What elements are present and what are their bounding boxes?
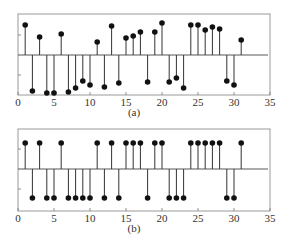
stem-marker <box>195 22 201 28</box>
x-tick-label: 10 <box>85 212 97 224</box>
x-tick-label: 25 <box>193 212 205 224</box>
stem-marker <box>231 82 237 88</box>
stem-marker <box>66 195 72 201</box>
x-tick-label: 0 <box>15 96 21 108</box>
x-tick-label: 5 <box>51 212 57 224</box>
panel-label: (b) <box>128 222 141 235</box>
stem-marker <box>159 140 165 146</box>
stem-marker <box>44 90 50 96</box>
x-tick-label: 10 <box>85 96 97 108</box>
stem-panel-b: 05101520253035(b) <box>15 129 276 235</box>
stem-marker <box>87 195 93 201</box>
stem-marker <box>58 31 64 37</box>
x-tick-label: 35 <box>265 96 277 108</box>
stem-marker <box>94 140 100 146</box>
stem-marker <box>109 23 115 29</box>
stem-marker <box>217 140 223 146</box>
stem-marker <box>30 88 36 94</box>
stem-marker <box>30 195 36 201</box>
stem-marker <box>210 24 216 30</box>
stem-marker <box>94 39 100 45</box>
stem-panel-a: 05101520253035(a) <box>15 14 276 119</box>
x-tick-label: 30 <box>229 96 241 108</box>
stem-marker <box>66 89 72 95</box>
stem-marker <box>102 84 108 90</box>
stem-marker <box>116 80 122 86</box>
x-tick-label: 25 <box>193 96 205 108</box>
stem-marker <box>22 140 28 146</box>
x-tick-label: 35 <box>265 212 277 224</box>
stem-marker <box>174 195 180 201</box>
stem-marker <box>224 195 230 201</box>
stem-marker <box>116 195 122 201</box>
stem-marker <box>145 79 151 85</box>
stem-marker <box>188 140 194 146</box>
stem-marker <box>188 22 194 28</box>
stem-marker <box>224 78 230 84</box>
stem-marker <box>159 20 165 26</box>
x-tick-label: 20 <box>157 212 169 224</box>
stem-marker <box>210 140 216 146</box>
stem-marker <box>102 195 108 201</box>
stem-marker <box>80 78 86 84</box>
stem-marker <box>202 140 208 146</box>
stem-marker <box>195 140 201 146</box>
stem-marker <box>123 35 129 41</box>
x-tick-label: 5 <box>51 96 57 108</box>
stem-plot-figure: 05101520253035(a)05101520253035(b) <box>0 0 289 237</box>
stem-marker <box>109 140 115 146</box>
stem-marker <box>130 33 136 39</box>
stem-marker <box>238 37 244 43</box>
stem-marker <box>145 195 151 201</box>
stem-marker <box>138 140 144 146</box>
plot-frame <box>18 14 270 95</box>
stem-marker <box>73 85 79 91</box>
stem-marker <box>37 34 43 40</box>
stem-marker <box>231 195 237 201</box>
stem-marker <box>37 140 43 146</box>
stem-marker <box>87 82 93 88</box>
stem-marker <box>22 22 28 28</box>
stem-marker <box>202 27 208 33</box>
stem-marker <box>174 75 180 81</box>
panel-label: (a) <box>128 106 141 119</box>
x-tick-label: 0 <box>15 212 21 224</box>
stem-marker <box>166 195 172 201</box>
stem-marker <box>217 26 223 32</box>
stem-marker <box>44 195 50 201</box>
stem-marker <box>152 29 158 35</box>
x-tick-label: 30 <box>229 212 241 224</box>
stem-marker <box>181 195 187 201</box>
stem-marker <box>166 79 172 85</box>
stem-marker <box>138 29 144 35</box>
stem-marker <box>130 140 136 146</box>
stem-marker <box>80 195 86 201</box>
x-tick-label: 20 <box>157 96 169 108</box>
stem-marker <box>51 195 57 201</box>
stem-marker <box>152 140 158 146</box>
stem-marker <box>238 140 244 146</box>
stem-marker <box>51 90 57 96</box>
stem-marker <box>73 195 79 201</box>
stem-marker <box>58 140 64 146</box>
stem-marker <box>123 140 129 146</box>
stem-marker <box>181 85 187 91</box>
